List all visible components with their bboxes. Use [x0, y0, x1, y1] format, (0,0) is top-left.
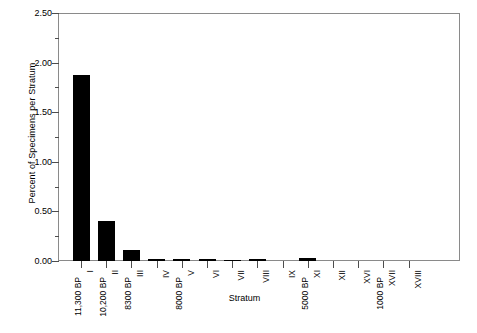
x-tick [283, 261, 284, 268]
x-tick [182, 261, 183, 268]
bar [199, 259, 216, 261]
y-tick-label: 2.50 [6, 8, 52, 18]
plot-area [58, 13, 460, 261]
bar [148, 259, 165, 261]
bar [299, 258, 316, 261]
x-tick-label: VI [211, 270, 221, 278]
x-tick-label: XII [337, 270, 347, 280]
x-tick-label: XVIII [413, 270, 423, 288]
x-tick [81, 261, 82, 268]
x-tick-label: III [135, 270, 145, 277]
y-tick-label: 1.00 [6, 157, 52, 167]
bar [123, 250, 140, 261]
x-tick [308, 261, 309, 268]
y-tick-label: 0.50 [6, 206, 52, 216]
y-tick-major [52, 112, 59, 113]
x-tick [383, 261, 384, 268]
y-tick-label: 2.00 [6, 58, 52, 68]
y-tick-label: 1.50 [6, 107, 52, 117]
bar-chart-figure: Percent of Specimens per Stratum 0.000.5… [0, 0, 477, 333]
x-axis-title: Stratum [0, 293, 477, 303]
y-tick-minor [55, 87, 59, 88]
x-tick-label: I [85, 270, 95, 272]
x-tick [131, 261, 132, 268]
x-tick [232, 261, 233, 268]
x-tick-label: IX [287, 270, 297, 278]
y-tick-major [52, 13, 59, 14]
y-tick-major [52, 63, 59, 64]
x-tick-label: V [186, 270, 196, 276]
y-tick-minor [55, 38, 59, 39]
bar [224, 260, 241, 262]
x-tick-label: XI [312, 270, 322, 278]
y-tick-major [52, 162, 59, 163]
x-tick-label: II [110, 270, 120, 275]
y-tick-major [52, 211, 59, 212]
bar [249, 259, 266, 261]
x-tick-label: VII [236, 270, 246, 280]
bar [173, 259, 190, 261]
x-tick [106, 261, 107, 268]
x-tick [409, 261, 410, 268]
x-tick [207, 261, 208, 268]
x-tick-label: XVII [387, 270, 397, 286]
bar [73, 75, 90, 261]
x-tick [358, 261, 359, 268]
x-tick [157, 261, 158, 268]
y-tick-minor [55, 236, 59, 237]
bar [98, 221, 115, 261]
x-tick-label: VIII [261, 270, 271, 283]
x-tick-label: XVI [362, 270, 372, 284]
y-tick-minor [55, 137, 59, 138]
y-tick-major [52, 261, 59, 262]
y-tick-minor [55, 187, 59, 188]
x-axis-title-text: Stratum [229, 293, 261, 303]
x-tick-label: IV [161, 270, 171, 278]
x-tick [333, 261, 334, 268]
x-tick [257, 261, 258, 268]
y-tick-label: 0.00 [6, 256, 52, 266]
